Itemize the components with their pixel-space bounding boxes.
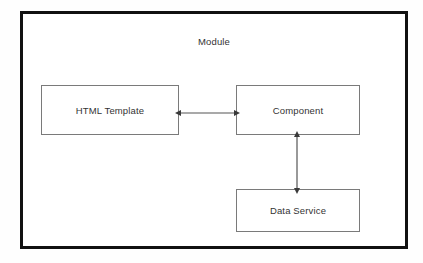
node-component-label: Component: [273, 105, 323, 116]
diagram-canvas: Module HTML Template Component Data Serv…: [0, 0, 423, 263]
node-data-service[interactable]: Data Service: [236, 189, 360, 232]
module-title: Module: [23, 36, 405, 47]
node-data-service-label: Data Service: [270, 205, 326, 216]
node-html-template-label: HTML Template: [76, 105, 144, 116]
node-html-template[interactable]: HTML Template: [41, 85, 179, 135]
node-component[interactable]: Component: [236, 85, 360, 135]
